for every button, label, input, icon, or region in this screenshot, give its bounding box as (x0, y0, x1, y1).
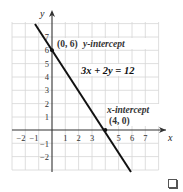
x-tick: 2 (76, 133, 80, 143)
y-tick: 5 (45, 59, 49, 69)
x-intercept-label: x-intercept (106, 105, 150, 115)
x-tick: 6 (130, 133, 134, 143)
svg-text:(0, 6) y-intercept: (0, 6) y-intercept (57, 39, 125, 50)
x-tick: 1 (63, 133, 67, 143)
x-intercept-annotation: x-intercept (4, 0) (106, 104, 162, 127)
y-tick: 1 (45, 112, 49, 122)
y-tick: −2 (40, 152, 49, 162)
y-intercept-label: y-intercept (82, 39, 125, 49)
y-intercept-annotation: (0, 6) y-intercept (56, 38, 152, 50)
x-tick: −1 (29, 133, 38, 143)
x-tick: 5 (116, 133, 120, 143)
x-tick-labels: −2 −1 1 2 3 5 6 7 (16, 133, 147, 143)
x-tick: 7 (143, 133, 147, 143)
y-tick: −1 (40, 139, 49, 149)
y-intercept-point-label: (0, 6) (57, 39, 78, 50)
y-axis-label: y (39, 8, 45, 19)
y-tick: 2 (45, 99, 49, 109)
x-axis-label: x (167, 132, 173, 143)
coordinate-graph: x y −2 −1 1 2 3 5 6 7 7 6 5 4 3 2 1 −1 −… (0, 0, 183, 192)
x-tick: −2 (16, 133, 25, 143)
y-tick-labels: 7 6 5 4 3 2 1 −1 −2 (40, 32, 50, 162)
y-tick: 3 (45, 85, 49, 95)
x-intercept-point (103, 128, 107, 132)
y-tick: 6 (45, 45, 49, 55)
x-tick: 3 (90, 133, 94, 143)
y-intercept-point (50, 48, 54, 52)
end-of-section-icon (168, 179, 177, 188)
equation-label: 3x + 2y = 12 (80, 65, 135, 76)
x-intercept-point-label: (4, 0) (109, 116, 130, 127)
